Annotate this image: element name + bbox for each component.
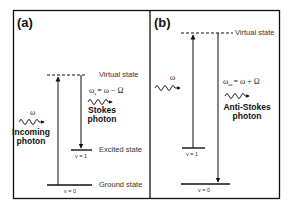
anti-stokes-label-line2-b: photon	[233, 111, 262, 121]
incoming-photon-wave-icon-b	[155, 86, 180, 91]
incoming-label-line2-a: photon	[17, 136, 46, 146]
raman-diagram: (a) Virtual state v = 1 Excited state v …	[0, 0, 290, 210]
incoming-photon-wave-icon-a	[19, 120, 44, 125]
stokes-label-line2-a: photon	[88, 114, 117, 124]
anti-stokes-formula-b: ωas= ω + Ω	[223, 77, 260, 87]
excited-state-label-a: Excited state	[99, 145, 142, 154]
incoming-omega-b: ω	[170, 73, 175, 82]
stokes-photon-wave-icon-a	[88, 100, 112, 105]
virtual-state-label-b: Virtual state	[235, 28, 274, 37]
v0-label-b: v = 0	[198, 187, 210, 193]
v1-label-a: v = 1	[75, 153, 87, 159]
anti-stokes-photon-wave-icon-b	[225, 94, 249, 99]
panel-b-tag: (b)	[154, 15, 171, 30]
virtual-state-label-a: Virtual state	[99, 70, 138, 79]
panel-b: (b) Virtual state v = 1 v = 0 ω ωas= ω +…	[154, 15, 274, 193]
stokes-formula-a: ωs= ω − Ω	[89, 86, 124, 96]
v0-label-a: v = 0	[64, 188, 76, 194]
incoming-omega-a: ω	[30, 108, 35, 117]
v1-label-b: v = 1	[186, 151, 198, 157]
panel-a-tag: (a)	[17, 15, 33, 30]
ground-state-label-a: Ground state	[99, 180, 142, 189]
panel-a: (a) Virtual state v = 1 Excited state v …	[12, 15, 142, 194]
